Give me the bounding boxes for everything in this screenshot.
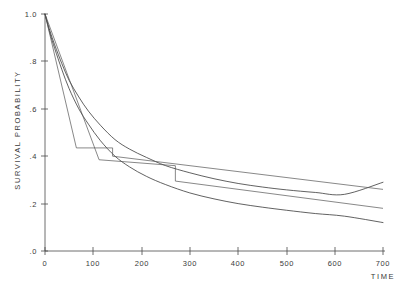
- chart-canvas: 1.0 .8 .6 .4 .2 .0 0 100 200 300 400 500…: [0, 0, 397, 285]
- y-tick-label-0.6: .6: [30, 105, 37, 114]
- y-tick-label-0.0: .0: [30, 247, 37, 256]
- x-axis-title: TIME: [371, 272, 395, 281]
- series-kaplan-meier-step-b: [45, 14, 383, 208]
- series-kaplan-meier-step-a: [45, 14, 383, 189]
- y-axis-title: SURVIVAL PROBABILITY: [13, 70, 22, 189]
- series-fitted-curve-upper: [45, 14, 383, 195]
- y-tick-label-0.2: .2: [30, 200, 37, 209]
- y-tick-label-1.0: 1.0: [25, 10, 37, 19]
- x-tick-label-100: 100: [86, 259, 100, 268]
- x-tick-label-500: 500: [280, 259, 294, 268]
- x-tick-label-200: 200: [135, 259, 149, 268]
- series-layer: [45, 14, 383, 223]
- x-tick-label-600: 600: [328, 259, 342, 268]
- y-tick-label-0.8: .8: [30, 57, 37, 66]
- x-tick-label-400: 400: [231, 259, 245, 268]
- survival-probability-chart: 1.0 .8 .6 .4 .2 .0 0 100 200 300 400 500…: [0, 0, 397, 285]
- y-tick-label-0.4: .4: [30, 152, 37, 161]
- x-tick-label-0: 0: [43, 259, 48, 268]
- x-tick-label-700: 700: [376, 259, 390, 268]
- series-fitted-curve-lower: [45, 14, 383, 223]
- x-tick-label-300: 300: [183, 259, 197, 268]
